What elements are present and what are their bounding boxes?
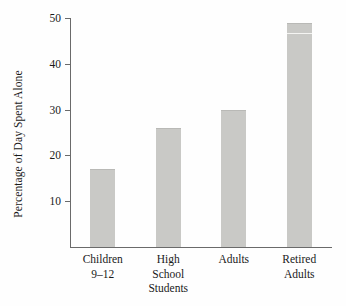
y-tick-mark (65, 64, 70, 65)
y-tick-mark (65, 110, 70, 111)
x-tick-label: Retired Adults (267, 252, 333, 281)
y-axis-line (70, 18, 71, 247)
y-tick-label: 50 (50, 12, 62, 24)
y-tick-label: 30 (50, 104, 62, 116)
bar (287, 23, 312, 247)
x-tick-label: Adults (201, 252, 267, 267)
bar (221, 110, 246, 247)
y-tick-mark (65, 201, 70, 202)
y-tick-label: 10 (50, 195, 62, 207)
y-axis-title: Percentage of Day Spent Alone (0, 0, 36, 306)
y-tick-label: 20 (50, 149, 62, 161)
bar (90, 169, 115, 247)
y-tick-label: 40 (50, 58, 62, 70)
bar (156, 128, 181, 247)
x-tick-label: High School Students (136, 252, 202, 296)
chart-screenshot: Percentage of Day Spent Alone 1020304050… (0, 0, 346, 306)
plot-area: 1020304050 Children 9–12High School Stud… (70, 18, 332, 248)
x-axis-line (70, 247, 332, 248)
y-tick-mark (65, 155, 70, 156)
x-tick-label: Children 9–12 (70, 252, 136, 281)
y-tick-mark (65, 18, 70, 19)
scanline-artifact (287, 33, 312, 35)
